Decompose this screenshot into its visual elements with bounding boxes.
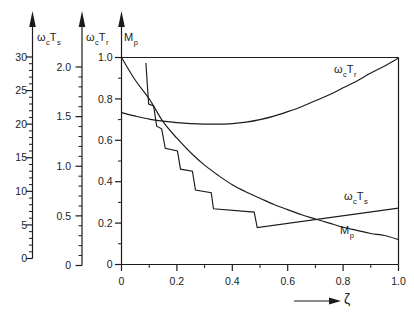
x-tick-label: 1.0 [391,275,406,287]
label-part-sub: r [354,70,357,79]
y-axis-arrowhead-icon [79,11,86,27]
y-tick-label: 25 [15,84,27,96]
curve-label-omega-c-ts: ωcTs [344,189,368,203]
label-part: ω [334,63,343,75]
y-tick-label: 10 [15,185,27,197]
label-part: T [347,63,354,75]
y-tick-label: 0.6 [98,134,113,146]
curve-omega_c_Tr [122,58,399,124]
chart-canvas: 05101520253000.51.01.52.000.20.40.60.81.… [0,0,414,315]
y-axis-arrowhead-icon [29,11,36,27]
y-tick-label: 2.0 [56,61,71,73]
label-part-sub: p [134,38,138,47]
y-axis-arrowhead-icon [118,11,125,27]
label-part: M [124,31,133,43]
figure-damping-design-curves: 05101520253000.51.01.52.000.20.40.60.81.… [0,0,414,315]
label-part-sub: c [46,38,50,47]
label-part-sub: p [350,231,354,240]
y-tick-label: 1.0 [56,160,71,172]
x-tick-label: 0.8 [336,275,351,287]
y-axis-Mp: 00.20.40.60.81.0 [98,11,125,270]
y-tick-label: 1.5 [56,110,71,122]
label-part: ζ [344,291,350,307]
y-tick-label: 0.2 [98,217,113,229]
y-axis-omega_c_Tr: 00.51.01.52.0 [56,11,85,271]
y-tick-label: 0.5 [56,210,71,222]
x-axis: 00.20.40.60.81.0 [119,265,406,305]
curve-Mp [122,58,399,240]
x-axis-arrowhead-icon [329,298,341,305]
label-part-sub: s [364,197,368,206]
y-axis-label-omega-c-tr: ωcTr [86,30,108,44]
x-tick-label: 0.4 [225,275,240,287]
curve-label-mp: Mp [340,223,354,237]
y-axis-omega_c_Ts: 051015202530 [15,11,35,264]
label-part: T [99,31,106,43]
x-tick-label: 0.2 [170,275,185,287]
y-tick-label: 1.0 [98,51,113,63]
label-part-sub: c [343,70,347,79]
y-tick-label: 0 [107,258,113,270]
label-part: ω [37,31,46,43]
y-tick-label: 15 [15,151,27,163]
x-tick-label: 0.6 [280,275,295,287]
y-tick-label: 30 [15,51,27,63]
label-part-sub: s [57,38,61,47]
label-part: ω [344,190,353,202]
x-tick-label: 0 [119,275,125,287]
label-part: ω [86,31,95,43]
label-part-sub: c [95,38,99,47]
y-tick-label: 0 [65,259,71,271]
label-part: M [340,224,349,236]
x-axis-symbol-label: ζ [344,291,350,307]
label-part-sub: c [353,197,357,206]
y-tick-label: 0.8 [98,93,113,105]
y-axis-label-omega-c-ts: ωcTs [37,30,61,44]
y-tick-label: 20 [15,118,27,130]
y-tick-label: 0 [21,252,27,264]
y-tick-label: 5 [21,219,27,231]
label-part: T [357,190,364,202]
curve-label-omega-c-tr: ωcTr [334,62,356,76]
label-part-sub: r [106,38,109,47]
y-tick-label: 0.4 [98,175,113,187]
y-axis-label-mp: Mp [124,30,138,44]
label-part: T [50,31,57,43]
